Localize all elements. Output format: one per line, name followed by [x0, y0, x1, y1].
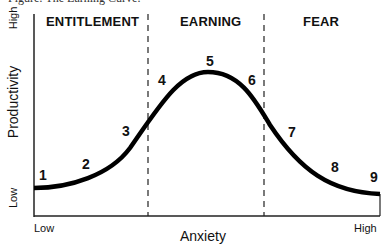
- point-8: 8: [331, 159, 339, 175]
- point-5: 5: [206, 53, 214, 69]
- point-4: 4: [158, 72, 166, 88]
- point-6: 6: [248, 72, 256, 88]
- y-low-label: Low: [7, 188, 19, 208]
- y-high-label: High: [7, 6, 19, 30]
- x-axis-label: Anxiety: [180, 228, 226, 244]
- curve-diagram: [0, 0, 381, 244]
- point-1: 1: [39, 167, 47, 183]
- zone-entitlement: ENTITLEMENT: [46, 14, 139, 29]
- earning-curve: [34, 72, 380, 194]
- point-3: 3: [122, 123, 130, 139]
- x-low-label: Low: [34, 222, 54, 234]
- point-2: 2: [82, 156, 90, 172]
- y-axis-label: Productivity: [5, 62, 21, 142]
- x-high-label: High: [354, 222, 377, 234]
- point-7: 7: [288, 124, 296, 140]
- zone-earning: EARNING: [180, 14, 241, 29]
- zone-fear: FEAR: [303, 14, 339, 29]
- point-9: 9: [370, 169, 378, 185]
